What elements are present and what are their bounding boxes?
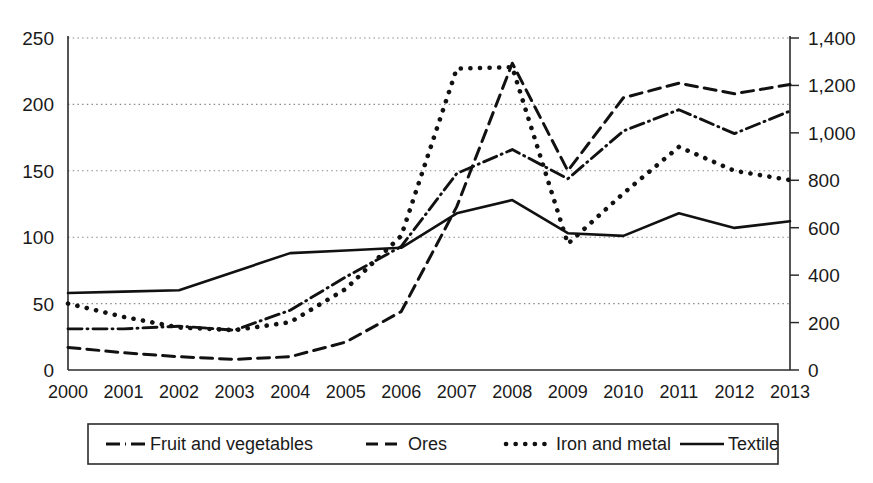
legend-label: Iron and metal xyxy=(556,434,671,454)
y-axis-tick-label: 200 xyxy=(22,94,54,115)
x-axis: 2000200120022003200420052006200720082009… xyxy=(48,382,810,402)
series-group xyxy=(68,63,790,359)
y2-axis-tick-label: 1,400 xyxy=(808,28,856,49)
y2-axis-tick-label: 400 xyxy=(808,265,840,286)
y2-axis-tick-label: 0 xyxy=(808,360,819,381)
y-axis-tick-label: 150 xyxy=(22,161,54,182)
y2-axis-tick-label: 1,200 xyxy=(808,75,856,96)
y-axis-tick-label: 50 xyxy=(33,294,54,315)
x-axis-tick-label: 2004 xyxy=(270,382,310,402)
legend-label: Textile xyxy=(728,434,779,454)
chart-figure: 05010015020025002004006008001,0001,2001,… xyxy=(0,0,873,483)
series-line-fruit-and-vegetables xyxy=(68,110,790,330)
x-axis-tick-label: 2005 xyxy=(326,382,366,402)
x-axis-tick-label: 2010 xyxy=(603,382,643,402)
series-line-textile xyxy=(68,200,790,293)
legend-item[interactable]: Textile xyxy=(680,434,779,454)
x-axis-tick-label: 2002 xyxy=(159,382,199,402)
x-axis-tick-label: 2011 xyxy=(660,382,699,402)
x-axis-tick-label: 2009 xyxy=(548,382,588,402)
x-axis-tick-label: 2013 xyxy=(770,382,810,402)
y-axis-tick-label: 250 xyxy=(22,28,54,49)
x-axis-tick-label: 2007 xyxy=(437,382,477,402)
legend-label: Ores xyxy=(408,434,447,454)
x-axis-tick-label: 2008 xyxy=(492,382,532,402)
y2-axis-tick-label: 800 xyxy=(808,170,840,191)
y-axis-right: 02004006008001,0001,2001,400 xyxy=(790,28,856,381)
legend-item[interactable]: Ores xyxy=(366,434,447,454)
legend-item[interactable]: Fruit and vegetables xyxy=(106,434,313,454)
series-line-ores xyxy=(68,63,790,359)
x-axis-tick-label: 2001 xyxy=(104,382,144,402)
y-axis-tick-label: 100 xyxy=(22,227,54,248)
legend: Fruit and vegetablesOresIron and metalTe… xyxy=(88,424,779,464)
y-axis-tick-label: 0 xyxy=(43,360,54,381)
x-axis-tick-label: 2003 xyxy=(215,382,255,402)
x-axis-tick-label: 2006 xyxy=(381,382,421,402)
legend-label: Fruit and vegetables xyxy=(150,434,313,454)
x-axis-tick-label: 2012 xyxy=(714,382,754,402)
x-axis-tick-label: 2000 xyxy=(48,382,88,402)
legend-item[interactable]: Iron and metal xyxy=(506,434,671,454)
y2-axis-tick-label: 200 xyxy=(808,313,840,334)
line-chart: 05010015020025002004006008001,0001,2001,… xyxy=(0,0,873,483)
y2-axis-tick-label: 600 xyxy=(808,218,840,239)
y2-axis-tick-label: 1,000 xyxy=(808,123,856,144)
